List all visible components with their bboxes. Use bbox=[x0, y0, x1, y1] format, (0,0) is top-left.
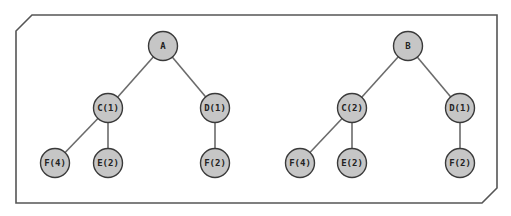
tree-diagram: A C(1) D(1) F(4) E(2) F(2) B C(2) D(1) F… bbox=[0, 0, 511, 216]
node-label: C(1) bbox=[97, 103, 119, 113]
node-a-f4: F(4) bbox=[41, 149, 70, 178]
nodes-layer: A C(1) D(1) F(4) E(2) F(2) B C(2) D(1) F… bbox=[41, 32, 475, 178]
node-label: D(1) bbox=[449, 103, 471, 113]
node-label: D(1) bbox=[204, 103, 226, 113]
node-label: F(4) bbox=[289, 158, 311, 168]
node-b-f2: F(2) bbox=[446, 149, 475, 178]
node-label: F(4) bbox=[44, 158, 66, 168]
node-a-d: D(1) bbox=[201, 94, 230, 123]
node-b-c: C(2) bbox=[338, 94, 367, 123]
node-label: A bbox=[160, 41, 166, 51]
chamfered-frame bbox=[16, 15, 497, 203]
node-b-root: B bbox=[394, 32, 423, 61]
node-a-e2: E(2) bbox=[94, 149, 123, 178]
node-a-c: C(1) bbox=[94, 94, 123, 123]
node-label: E(2) bbox=[97, 158, 119, 168]
node-label: B bbox=[405, 41, 411, 51]
node-b-f4: F(4) bbox=[286, 149, 315, 178]
node-b-d: D(1) bbox=[446, 94, 475, 123]
node-label: E(2) bbox=[341, 158, 363, 168]
node-a-root: A bbox=[149, 32, 178, 61]
node-label: C(2) bbox=[341, 103, 363, 113]
node-a-f2: F(2) bbox=[201, 149, 230, 178]
node-label: F(2) bbox=[449, 158, 471, 168]
node-label: F(2) bbox=[204, 158, 226, 168]
node-b-e2: E(2) bbox=[338, 149, 367, 178]
